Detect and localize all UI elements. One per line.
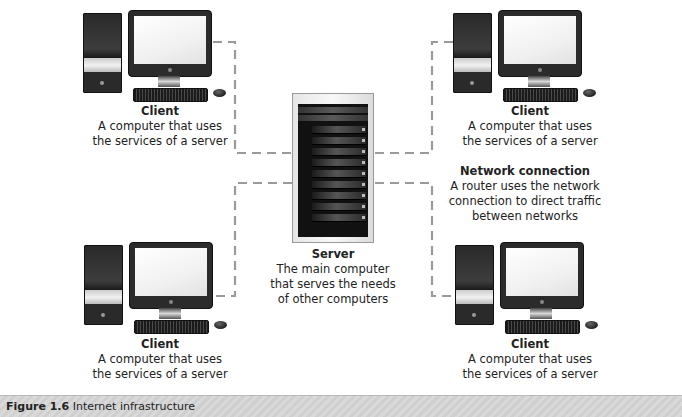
client-title: Client [440, 337, 620, 352]
mouse-icon [585, 321, 598, 329]
monitor-icon [129, 242, 213, 309]
mouse-icon [583, 89, 596, 97]
client-label-top-right: Client A computer that uses the services… [440, 104, 620, 149]
client-description: A computer that uses the services of a s… [70, 352, 250, 382]
client-computer-top-right [453, 10, 598, 105]
client-title: Client [70, 104, 250, 119]
client-computer-bottom-left [84, 242, 229, 337]
network-connection-title: Network connection [430, 164, 620, 179]
network-diagram: Client A computer that uses the services… [0, 0, 682, 395]
client-label-top-left: Client A computer that uses the services… [70, 104, 250, 149]
client-title: Client [70, 337, 250, 352]
figure-title: Internet infrastructure [73, 400, 195, 413]
keyboard-icon [503, 88, 578, 102]
client-title: Client [440, 104, 620, 119]
network-connection-label: Network connection A router uses the net… [430, 164, 620, 224]
client-label-bottom-right: Client A computer that uses the services… [440, 337, 620, 382]
client-computer-bottom-right [455, 242, 600, 337]
monitor-icon [128, 10, 212, 77]
client-description: A computer that uses the services of a s… [70, 119, 250, 149]
client-computer-top-left [83, 10, 228, 105]
client-description: A computer that uses the services of a s… [440, 352, 620, 382]
client-label-bottom-left: Client A computer that uses the services… [70, 337, 250, 382]
server-label: Server The main computer that serves the… [243, 247, 423, 307]
server-tower-icon [292, 93, 374, 243]
keyboard-icon [134, 320, 209, 334]
monitor-icon [498, 10, 582, 77]
network-connection-description: A router uses the network connection to … [430, 179, 620, 224]
figure-caption-bar: Figure 1.6 Internet infrastructure [0, 395, 682, 417]
server-description: The main computer that serves the needs … [243, 262, 423, 307]
mouse-icon [213, 89, 226, 97]
keyboard-icon [505, 320, 580, 334]
server-title: Server [243, 247, 423, 262]
figure-caption: Figure 1.6 Internet infrastructure [6, 400, 195, 413]
mouse-icon [214, 321, 227, 329]
monitor-icon [500, 242, 584, 309]
tower-icon [453, 13, 492, 93]
tower-icon [83, 13, 122, 93]
client-description: A computer that uses the services of a s… [440, 119, 620, 149]
tower-icon [84, 245, 123, 325]
keyboard-icon [133, 88, 208, 102]
figure-number: Figure 1.6 [6, 400, 69, 413]
tower-icon [455, 245, 494, 325]
